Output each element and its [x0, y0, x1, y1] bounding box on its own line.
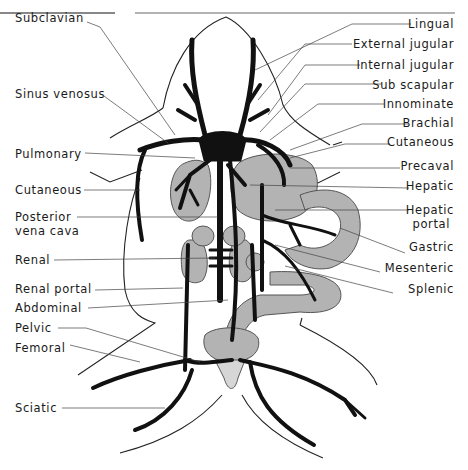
label-pulmonary: Pulmonary — [15, 148, 82, 161]
label-sub-scapular: Sub scapular — [372, 79, 454, 92]
femoral-left — [93, 360, 190, 388]
label-brachial: Brachial — [402, 117, 454, 130]
label-posterior-vena-cava-line1: Posterior — [15, 211, 71, 224]
label-precaval: Precaval — [400, 160, 454, 173]
label-hepatic-portal-line1: Hepatic — [406, 204, 454, 217]
label-posterior-vena-cava-line2: vena cava — [15, 225, 80, 238]
label-pelvic: Pelvic — [15, 322, 52, 335]
sciatic-right — [250, 362, 314, 445]
label-cutaneous-right: Cutaneous — [387, 136, 454, 149]
gonad-left — [192, 226, 214, 246]
label-mesenteric: Mesenteric — [385, 262, 454, 275]
label-abdominal: Abdominal — [15, 302, 82, 315]
cloaca — [215, 360, 245, 389]
label-gastric: Gastric — [409, 241, 454, 254]
label-cutaneous-left: Cutaneous — [15, 184, 82, 197]
label-innominate: Innominate — [383, 98, 454, 111]
label-femoral: Femoral — [15, 342, 65, 355]
liver — [231, 154, 318, 221]
label-renal: Renal — [15, 254, 50, 267]
pelvic — [185, 360, 232, 363]
sciatic-left — [135, 370, 192, 430]
cutaneous-left — [137, 150, 145, 240]
label-splenic: Splenic — [408, 283, 454, 296]
label-renal-portal: Renal portal — [15, 283, 92, 296]
subclavian-left — [140, 139, 205, 150]
organs — [171, 154, 361, 388]
label-hepatic-portal-line2: portal — [413, 218, 450, 231]
label-sinus-venosus: Sinus venosus — [15, 88, 105, 101]
label-external-jugular: External jugular — [353, 38, 454, 51]
label-hepatic: Hepatic — [406, 180, 454, 193]
label-lingual: Lingual — [408, 18, 454, 31]
label-subclavian: Subclavian — [15, 12, 84, 25]
label-internal-jugular: Internal jugular — [356, 59, 454, 72]
label-sciatic: Sciatic — [15, 402, 57, 415]
